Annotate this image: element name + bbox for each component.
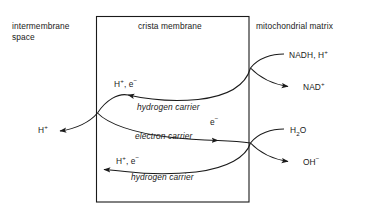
region-label-crista-membrane: crista membrane xyxy=(138,21,202,32)
nadh-input-curve xyxy=(251,54,285,68)
nad-charge: + xyxy=(321,80,325,87)
species-label-nad: NAD+ xyxy=(303,82,325,93)
species-label-proton-out: H+ xyxy=(38,125,48,136)
water-o: O xyxy=(300,125,307,135)
h-e-top-e-charge: − xyxy=(134,77,138,84)
nadh-text: NADH, H xyxy=(289,50,324,60)
hydrogen-carrier-top-tail xyxy=(98,95,129,113)
species-label-electron: e− xyxy=(210,117,218,128)
species-label-water: H2O xyxy=(290,125,306,136)
species-label-h-e-top: H+, e− xyxy=(114,79,137,90)
electron-charge: − xyxy=(215,115,219,122)
hydroxide-text: OH xyxy=(303,157,316,167)
h-e-bottom-e-charge: − xyxy=(136,154,140,161)
hydroxide-charge: − xyxy=(316,155,320,162)
region-label-intermembrane-space-line1: intermembrane xyxy=(12,21,70,32)
proton-release-arrow xyxy=(60,113,98,131)
water-input-curve xyxy=(251,129,285,143)
species-label-hydroxide: OH− xyxy=(303,157,319,168)
species-label-h-e-bottom: H+, e− xyxy=(116,156,139,167)
region-label-mitochondrial-matrix: mitochondrial matrix xyxy=(256,21,333,32)
nad-text: NAD xyxy=(303,82,321,92)
proton-out-charge: + xyxy=(44,123,48,130)
carrier-label-electron: electron carrier xyxy=(135,131,192,142)
electron-carrier-tail xyxy=(218,141,251,144)
nad-output-arrow xyxy=(251,68,289,87)
species-label-nadh: NADH, H+ xyxy=(289,50,328,61)
hydrogen-carrier-bottom-arrow xyxy=(104,170,125,172)
hydroxide-output-arrow xyxy=(251,143,289,162)
diagram-canvas: intermembrane space crista membrane mito… xyxy=(0,0,366,213)
carrier-label-hydrogen-top: hydrogen carrier xyxy=(137,102,200,113)
region-label-intermembrane-space-line2: space xyxy=(12,32,35,43)
hydrogen-carrier-bottom-curve xyxy=(125,143,251,174)
nadh-charge: + xyxy=(324,48,328,55)
hydrogen-carrier-top-curve xyxy=(128,68,251,100)
carrier-label-hydrogen-bottom: hydrogen carrier xyxy=(131,172,194,183)
